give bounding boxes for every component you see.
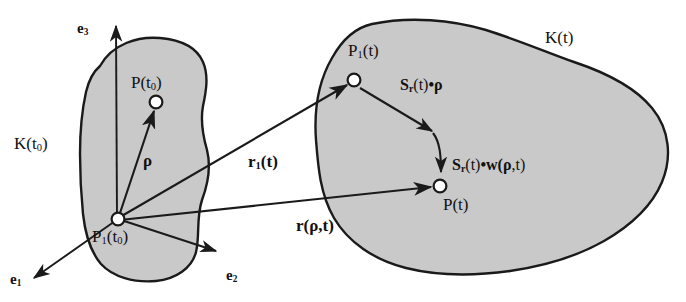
label-basis-e3: e3: [77, 21, 88, 37]
label-body-reference: K(t0): [14, 135, 48, 154]
label-basis-e1: e1: [10, 272, 21, 288]
label-vector-Sr-w: Sr(t)•w(ρ,t): [452, 157, 525, 174]
basis-vector-e3: [116, 26, 117, 219]
label-point-P-t0: P(t0): [131, 74, 162, 93]
label-origin-P1-t0: P1(t0): [92, 228, 128, 247]
label-point-P-t: P(t): [443, 196, 469, 213]
label-vector-Sr-rho: Sr(t)•ρ: [400, 77, 443, 94]
label-point-P1-t: P1(t): [348, 42, 379, 61]
node-point-P-t: [434, 180, 447, 193]
label-basis-e2: e2: [226, 268, 237, 284]
figure-canvas: e3 e1 e2 K(t0) K(t) P(t0) P1(t0) P1(t) P…: [0, 0, 686, 302]
node-point-P1-t: [348, 74, 361, 87]
node-origin-P1-t0: [112, 213, 125, 226]
label-body-current: K(t): [545, 29, 573, 46]
label-vector-rho: ρ: [143, 152, 152, 169]
label-vector-r-rho-t: r(ρ,t): [296, 217, 334, 234]
diagram-svg: [0, 0, 686, 302]
label-vector-r1-t: r1(t): [248, 153, 278, 172]
node-point-P-t0: [150, 96, 163, 109]
